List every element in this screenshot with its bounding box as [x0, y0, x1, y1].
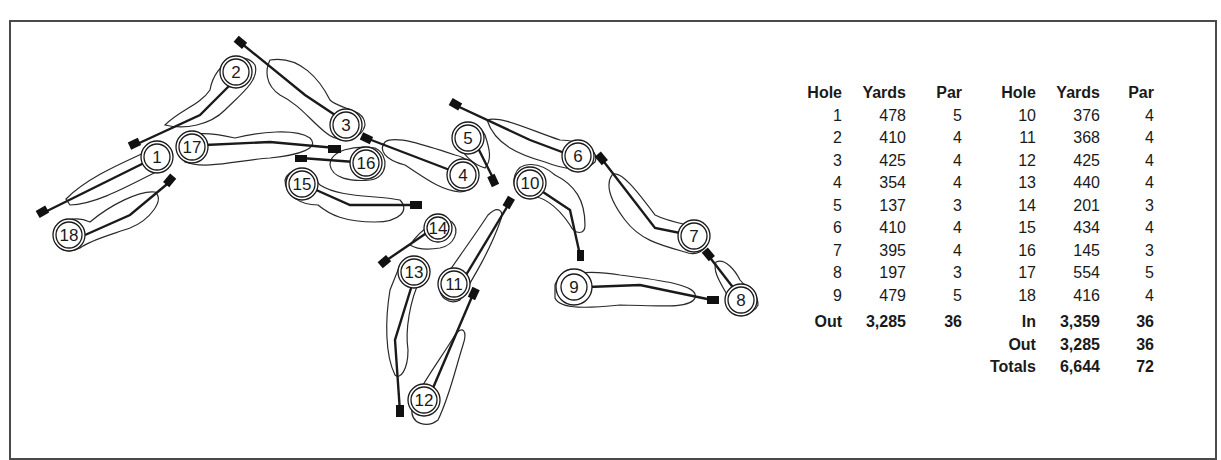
hole-11-line — [460, 202, 510, 285]
hole-par: 5 — [906, 105, 962, 128]
hole-yards: 416 — [1036, 285, 1100, 308]
green-hole-15: 15 — [286, 168, 318, 200]
scorecard: Hole Yards Par Hole Yards Par 1 478 5 10… — [800, 82, 1180, 379]
table-row: 9 479 5 18 416 4 — [800, 285, 1154, 308]
hole-9-line — [588, 285, 712, 300]
tee-box-hole-10 — [577, 250, 584, 261]
table-row: 6 410 4 15 434 4 — [800, 217, 1154, 240]
out-par-right: 36 — [1100, 334, 1154, 357]
table-row: 4 354 4 13 440 4 — [800, 172, 1154, 195]
out-yards-right: 3,285 — [1036, 334, 1100, 357]
header-yards-front: Yards — [842, 82, 906, 105]
green-hole-14: 14 — [424, 214, 452, 242]
hole-par: 4 — [1100, 127, 1154, 150]
header-yards-back: Yards — [1036, 82, 1100, 105]
green-hole-18: 18 — [53, 219, 85, 251]
hole-number: 16 — [990, 240, 1036, 263]
tee-box-hole-17 — [328, 145, 341, 153]
tee-box-hole-5 — [487, 174, 499, 187]
hole-18-line — [85, 180, 172, 235]
hole-par: 4 — [1100, 150, 1154, 173]
svg-text:1: 1 — [152, 148, 161, 167]
hole-number: 6 — [800, 217, 842, 240]
hole-number: 4 — [800, 172, 842, 195]
hole-number: 9 — [800, 285, 842, 308]
green-hole-11: 11 — [438, 268, 470, 300]
svg-text:6: 6 — [573, 147, 582, 166]
hole-par: 3 — [906, 195, 962, 218]
hole-yards: 410 — [842, 217, 906, 240]
out-label: Out — [800, 307, 842, 334]
hole-yards: 201 — [1036, 195, 1100, 218]
green-hole-9: 9 — [556, 269, 592, 305]
hole-number: 3 — [800, 150, 842, 173]
hole-par: 4 — [1100, 217, 1154, 240]
hole-number: 2 — [800, 127, 842, 150]
green-hole-12: 12 — [408, 384, 440, 416]
hole-12-line — [430, 292, 474, 395]
hole-par: 4 — [906, 240, 962, 263]
hole-3-line — [241, 43, 335, 115]
header-par-front: Par — [906, 82, 962, 105]
header-hole-front: Hole — [800, 82, 842, 105]
svg-text:7: 7 — [689, 227, 698, 246]
hole-par: 4 — [1100, 105, 1154, 128]
table-row: 2 410 4 11 368 4 — [800, 127, 1154, 150]
tee-box-hole-1 — [36, 206, 50, 218]
in-yards: 3,359 — [1036, 307, 1100, 334]
hole-yards: 440 — [1036, 172, 1100, 195]
hole-par: 3 — [1100, 195, 1154, 218]
hole-17-line — [205, 142, 336, 148]
hole-number: 7 — [800, 240, 842, 263]
out-yards: 3,285 — [842, 307, 906, 334]
hole-par: 5 — [906, 285, 962, 308]
in-label: In — [990, 307, 1036, 334]
in-par: 36 — [1100, 307, 1154, 334]
table-row: 3 425 4 12 425 4 — [800, 150, 1154, 173]
out-label-right: Out — [990, 334, 1036, 357]
tee-box-hole-11 — [503, 196, 515, 210]
svg-text:9: 9 — [569, 278, 578, 297]
svg-text:8: 8 — [736, 291, 745, 310]
out-par: 36 — [906, 307, 962, 334]
totals-par: 72 — [1100, 356, 1154, 379]
scorecard-table: Hole Yards Par Hole Yards Par 1 478 5 10… — [800, 82, 1154, 379]
hole-par: 4 — [906, 217, 962, 240]
green-hole-4: 4 — [447, 159, 479, 191]
hole-15-line — [305, 185, 415, 205]
tee-box-hole-13 — [396, 405, 404, 417]
table-row: 7 395 4 16 145 3 — [800, 240, 1154, 263]
hole-16-line — [301, 158, 355, 162]
scorecard-header-row: Hole Yards Par Hole Yards Par — [800, 82, 1154, 105]
subtotal-row: Out 3,285 36 In 3,359 36 — [800, 307, 1154, 334]
green-hole-17: 17 — [176, 131, 208, 163]
green-hole-8: 8 — [725, 284, 757, 316]
hole-yards: 410 — [842, 127, 906, 150]
hole-number: 12 — [990, 150, 1036, 173]
hole-yards: 425 — [1036, 150, 1100, 173]
hole-yards: 554 — [1036, 262, 1100, 285]
svg-text:12: 12 — [415, 391, 434, 410]
hole-yards: 197 — [842, 262, 906, 285]
hole-number: 15 — [990, 217, 1036, 240]
svg-text:11: 11 — [445, 275, 463, 294]
svg-text:5: 5 — [463, 129, 472, 148]
green-hole-10: 10 — [514, 167, 546, 199]
hole-yards: 354 — [842, 172, 906, 195]
svg-text:15: 15 — [293, 175, 312, 194]
hole-par: 4 — [906, 172, 962, 195]
table-row: 8 197 3 17 554 5 — [800, 262, 1154, 285]
totals-row: Totals 6,644 72 — [800, 356, 1154, 379]
hole-10-line — [540, 190, 580, 255]
table-row: 5 137 3 14 201 3 — [800, 195, 1154, 218]
hole-par: 4 — [906, 150, 962, 173]
tee-box-hole-2 — [128, 138, 141, 150]
hole-7-line — [601, 158, 690, 235]
out-repeat-row: Out 3,285 36 — [800, 334, 1154, 357]
hole-number: 14 — [990, 195, 1036, 218]
green-hole-16: 16 — [350, 147, 382, 179]
hole-number: 10 — [990, 105, 1036, 128]
hole-1-line — [43, 160, 150, 213]
green-hole-2: 2 — [220, 56, 252, 88]
hole-yards: 478 — [842, 105, 906, 128]
